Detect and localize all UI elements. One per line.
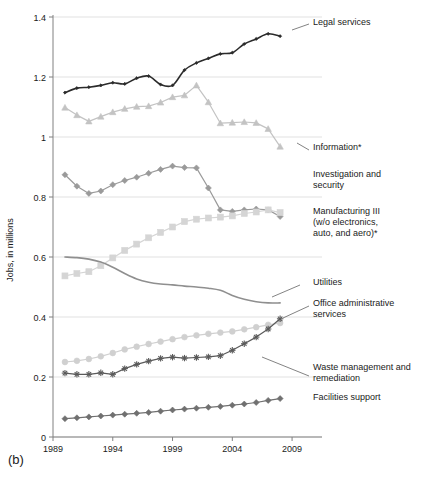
data-point-marker xyxy=(122,247,128,253)
series-label-line: Investigation and xyxy=(313,169,381,179)
data-point-marker xyxy=(229,213,235,219)
data-point-marker xyxy=(62,273,68,279)
data-point-marker xyxy=(74,271,80,277)
data-point-marker xyxy=(217,214,223,220)
data-point-marker xyxy=(241,326,247,332)
series-label-line: services xyxy=(313,309,347,319)
data-point-marker xyxy=(205,215,211,221)
y-tick-label: 0.8 xyxy=(33,193,46,203)
series-label-line: Facilities support xyxy=(313,392,381,402)
series-label-line: Office administrative xyxy=(313,298,394,308)
y-tick-label: 0.4 xyxy=(33,313,46,323)
series-label-line: Waste management and xyxy=(313,362,411,372)
data-point-marker xyxy=(74,358,80,364)
data-point-marker xyxy=(277,210,283,216)
series-label-line: Legal services xyxy=(313,17,371,27)
data-point-marker xyxy=(205,331,211,337)
data-point-marker xyxy=(134,344,140,350)
x-tick-label: 2009 xyxy=(282,444,302,454)
jobs-by-industry-line-chart: 00.20.40.60.811.21.4 1989199419992004200… xyxy=(0,0,427,484)
series-label-line: remediation xyxy=(313,373,360,383)
data-point-marker xyxy=(122,347,128,353)
y-tick-label: 1.2 xyxy=(33,73,46,83)
y-tick-label: 0.6 xyxy=(33,253,46,263)
series-label-line: Manufacturing III xyxy=(313,206,380,216)
x-tick-label: 1999 xyxy=(163,444,183,454)
data-point-marker xyxy=(170,224,176,230)
series-label-utilities: Utilities xyxy=(313,277,343,287)
data-point-marker xyxy=(229,329,235,335)
data-point-marker xyxy=(146,341,152,347)
data-point-marker xyxy=(110,255,116,261)
x-tick-label: 2004 xyxy=(222,444,242,454)
series-label-facilities-support: Facilities support xyxy=(313,392,381,402)
data-point-marker xyxy=(86,269,92,275)
data-point-marker xyxy=(253,209,259,215)
y-tick-label: 1 xyxy=(41,133,46,143)
data-point-marker xyxy=(158,229,164,235)
panel-label: (b) xyxy=(8,452,24,467)
data-point-marker xyxy=(98,353,104,359)
series-label-information: Information* xyxy=(313,142,362,152)
series-label-line: Utilities xyxy=(313,277,343,287)
series-label-legal-services: Legal services xyxy=(313,17,371,27)
series-label-line: Information* xyxy=(313,142,362,152)
series-label-line: (w/o electronics, xyxy=(313,217,378,227)
data-point-marker xyxy=(62,359,68,365)
data-point-marker xyxy=(181,219,187,225)
data-point-marker xyxy=(182,334,188,340)
chart-background xyxy=(0,0,427,484)
data-point-marker xyxy=(194,332,200,338)
data-point-marker xyxy=(253,324,259,330)
data-point-marker xyxy=(86,356,92,362)
x-tick-label: 1989 xyxy=(43,444,63,454)
data-point-marker xyxy=(265,207,271,213)
data-point-marker xyxy=(158,339,164,345)
series-label-line: auto, and aero)* xyxy=(313,228,378,238)
data-point-marker xyxy=(217,330,223,336)
y-tick-label: 0 xyxy=(41,433,46,443)
data-point-marker xyxy=(134,241,140,247)
chart-figure: 00.20.40.60.811.21.4 1989199419992004200… xyxy=(0,0,427,484)
data-point-marker xyxy=(146,235,152,241)
y-tick-label: 0.2 xyxy=(33,373,46,383)
data-point-marker xyxy=(241,211,247,217)
y-tick-label: 1.4 xyxy=(33,13,46,23)
series-label-line: security xyxy=(313,180,345,190)
series-label-manufacturing-iii-w-o-electronics-auto-and-aero: Manufacturing III(w/o electronics,auto, … xyxy=(313,206,380,238)
data-point-marker xyxy=(193,216,199,222)
y-axis-title: Jobs, in millions xyxy=(5,218,15,282)
data-point-marker xyxy=(170,336,176,342)
data-point-marker xyxy=(110,350,116,356)
x-tick-label: 1994 xyxy=(103,444,123,454)
